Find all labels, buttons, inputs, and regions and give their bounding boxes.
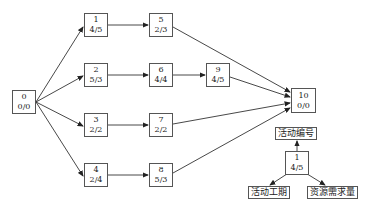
legend-node-value: 4/5 [291,163,304,173]
node-3: 32/2 [84,113,108,137]
node-duration-resource: 4/4 [155,75,168,85]
legend-sample-node: 1 4/5 [285,151,309,175]
node-number: 5 [158,15,163,25]
node-number: 8 [158,165,163,175]
node-4: 42/4 [84,163,108,187]
node-1: 14/5 [84,13,108,37]
node-number: 3 [93,115,98,125]
node-duration-resource: 0/0 [18,102,31,112]
node-2: 25/3 [84,63,108,87]
node-number: 10 [298,91,308,101]
node-duration-resource: 5/3 [90,75,103,85]
node-duration-resource: 2/3 [155,25,168,35]
node-7: 72/2 [149,113,173,137]
node-number: 2 [93,65,98,75]
edge-0-2 [36,76,83,102]
node-duration-resource: 4/5 [212,75,225,85]
node-duration-resource: 5/3 [155,175,168,185]
edge-7-10 [173,103,290,124]
edge-0-3 [36,102,83,126]
edge-8-10 [173,108,290,173]
node-duration-resource: 0/0 [297,101,310,111]
node-5: 52/3 [149,13,173,37]
node-duration-resource: 4/5 [90,25,103,35]
node-number: 1 [93,15,98,25]
node-8: 85/3 [149,163,173,187]
edge-5-10 [173,27,290,92]
node-duration-resource: 2/4 [90,175,103,185]
legend-node-number: 1 [294,153,299,163]
node-number: 6 [158,65,163,75]
legend-activity-duration: 活动工期 [248,186,290,199]
node-9: 94/5 [206,63,230,87]
node-number: 4 [93,165,98,175]
node-6: 64/4 [149,63,173,87]
edge-0-1 [36,27,83,102]
node-number: 7 [158,115,163,125]
legend-activity-number: 活动编号 [275,127,317,140]
node-number: 0 [21,92,26,102]
node-duration-resource: 2/2 [155,125,168,135]
node-duration-resource: 2/2 [90,125,103,135]
node-number: 9 [215,65,220,75]
legend-resource-demand: 资源需求量 [307,186,358,199]
node-10: 100/0 [291,88,316,113]
node-0: 00/0 [12,90,36,114]
edge-0-4 [36,102,83,176]
